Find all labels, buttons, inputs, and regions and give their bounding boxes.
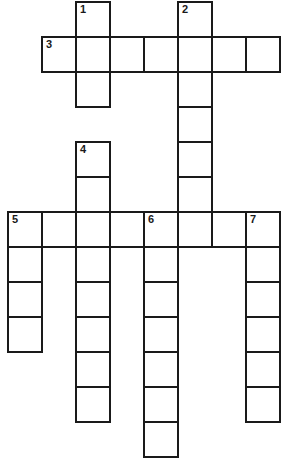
crossword-cell[interactable]: 7 [245, 211, 281, 248]
crossword-cell[interactable] [75, 36, 111, 73]
crossword-cell[interactable] [7, 316, 43, 353]
crossword-cell[interactable] [7, 246, 43, 283]
crossword-cell[interactable] [245, 281, 281, 318]
crossword-cell[interactable]: 3 [41, 36, 77, 73]
crossword-cell[interactable] [143, 316, 179, 353]
clue-number: 3 [46, 39, 52, 50]
crossword-cell[interactable] [75, 71, 111, 108]
clue-number: 4 [80, 144, 86, 155]
crossword-cell[interactable] [143, 281, 179, 318]
crossword-cell[interactable] [177, 36, 213, 73]
crossword-cell[interactable] [7, 281, 43, 318]
crossword-cell[interactable] [211, 36, 247, 73]
crossword-cell[interactable]: 2 [177, 1, 213, 38]
clue-number: 2 [182, 4, 188, 15]
crossword-cell[interactable]: 5 [7, 211, 43, 248]
crossword-cell[interactable] [245, 316, 281, 353]
crossword-cell[interactable] [75, 246, 111, 283]
crossword-cell[interactable] [75, 176, 111, 213]
crossword-cell[interactable] [75, 211, 111, 248]
crossword-cell[interactable] [211, 211, 247, 248]
crossword-cell[interactable] [177, 176, 213, 213]
crossword-cell[interactable] [245, 246, 281, 283]
crossword-cell[interactable] [177, 71, 213, 108]
crossword-cell[interactable] [75, 351, 111, 388]
crossword-cell[interactable] [41, 211, 77, 248]
crossword-cell[interactable] [75, 281, 111, 318]
crossword-cell[interactable]: 4 [75, 141, 111, 178]
crossword-cell[interactable] [109, 211, 145, 248]
crossword-cell[interactable]: 1 [75, 1, 111, 38]
crossword-cell[interactable] [177, 106, 213, 143]
crossword-cell[interactable]: 6 [143, 211, 179, 248]
crossword-cell[interactable] [177, 141, 213, 178]
crossword-cell[interactable] [75, 316, 111, 353]
crossword-cell[interactable] [143, 351, 179, 388]
crossword-cell[interactable] [245, 386, 281, 423]
crossword-cell[interactable] [143, 386, 179, 423]
clue-number: 1 [80, 4, 86, 15]
crossword-cell[interactable] [177, 211, 213, 248]
crossword-cell[interactable] [75, 386, 111, 423]
clue-number: 5 [12, 214, 18, 225]
crossword-cell[interactable] [245, 351, 281, 388]
crossword-cell[interactable] [143, 246, 179, 283]
clue-number: 6 [148, 214, 154, 225]
crossword-cell[interactable] [109, 36, 145, 73]
clue-number: 7 [250, 214, 256, 225]
crossword-cell[interactable] [245, 36, 281, 73]
crossword-cell[interactable] [143, 421, 179, 458]
crossword-cell[interactable] [143, 36, 179, 73]
